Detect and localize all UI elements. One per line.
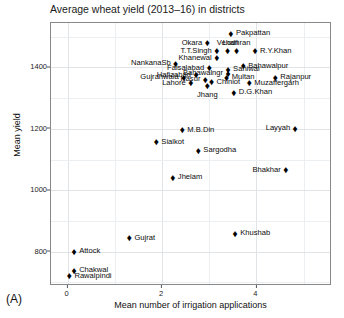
data-point-label: Muzaffergarh xyxy=(254,79,299,87)
panel-label: (A) xyxy=(6,292,22,306)
plot-area: PakpattanOkaraLodhranVehariR.Y.KhanT.T.S… xyxy=(50,22,331,285)
data-point-marker xyxy=(246,80,252,86)
data-point-marker xyxy=(66,273,72,279)
data-point-marker xyxy=(153,139,159,145)
data-point-label: Chiniot xyxy=(217,78,241,86)
y-tick-mark xyxy=(47,128,50,129)
data-point-label: Layyah xyxy=(266,124,291,132)
data-point-label: Khushab xyxy=(240,229,270,237)
data-point-label: Vehari xyxy=(217,39,239,47)
data-point-label: Lahore xyxy=(162,79,186,87)
data-point-label: R.Y.Khan xyxy=(260,47,292,55)
x-tick-label: 4 xyxy=(253,289,257,298)
data-point-marker xyxy=(233,48,239,54)
data-point-label: Sialkot xyxy=(161,138,184,146)
data-point-label: Jhelam xyxy=(178,173,202,181)
data-point-label: Jhang xyxy=(197,91,218,99)
figure-panel: Average wheat yield (2013–16) in distric… xyxy=(0,0,344,318)
data-point-marker xyxy=(204,83,210,89)
data-point-marker xyxy=(179,127,185,133)
y-tick-label: 800 xyxy=(34,246,47,255)
data-point-marker xyxy=(126,235,132,241)
data-point-label: Attock xyxy=(79,247,100,255)
data-points-layer: PakpattanOkaraLodhranVehariR.Y.KhanT.T.S… xyxy=(51,23,330,284)
y-axis-ticks: 800100012001400 xyxy=(0,22,47,285)
y-tick-label: 1000 xyxy=(30,185,47,194)
data-point-label: Gujrat xyxy=(134,234,155,242)
y-axis-label: Mean yield xyxy=(12,70,22,200)
x-tick-label: 0 xyxy=(64,289,68,298)
data-point-marker xyxy=(232,231,238,237)
y-tick-mark xyxy=(47,251,50,252)
y-tick-mark xyxy=(47,189,50,190)
data-point-label: D.G.Khan xyxy=(239,88,272,96)
data-point-marker xyxy=(292,125,298,131)
data-point-label: Sargodha xyxy=(203,146,236,154)
x-axis-ticks: 024 xyxy=(50,285,331,301)
chart-title: Average wheat yield (2013–16) in distric… xyxy=(50,2,340,16)
data-point-label: Rawalpindi xyxy=(74,272,111,280)
data-point-marker xyxy=(252,48,258,54)
x-axis-label: Mean number of irrigation applications xyxy=(50,300,331,310)
x-tick-mark xyxy=(67,285,68,288)
x-tick-label: 2 xyxy=(159,289,163,298)
data-point-marker xyxy=(228,31,234,37)
y-tick-mark xyxy=(47,66,50,67)
x-tick-mark xyxy=(161,285,162,288)
x-tick-mark xyxy=(255,285,256,288)
data-point-label: Khanewal xyxy=(178,54,211,62)
data-point-marker xyxy=(214,55,220,61)
data-point-label: Bhakhar xyxy=(252,166,280,174)
data-point-marker xyxy=(195,148,201,154)
data-point-marker xyxy=(231,90,237,96)
data-point-marker xyxy=(170,175,176,181)
data-point-label: M.B.Din xyxy=(187,126,214,134)
y-tick-label: 1400 xyxy=(30,62,47,71)
data-point-label: NankanaSb xyxy=(131,59,171,67)
data-point-marker xyxy=(224,48,230,54)
data-point-marker xyxy=(283,167,289,173)
data-point-label: Pakpattan xyxy=(236,29,270,37)
y-tick-label: 1200 xyxy=(30,123,47,132)
data-point-marker xyxy=(188,80,194,86)
data-point-marker xyxy=(71,248,77,254)
